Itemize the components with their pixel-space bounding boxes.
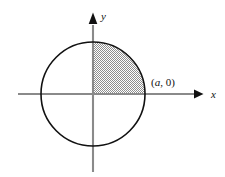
point-a-label: (a, 0) [151,76,175,89]
x-axis-label: x [210,88,216,100]
circle-quadrant-diagram: y x (a, 0) [0,0,225,177]
figure-container: y x (a, 0) [0,0,225,177]
y-axis-arrowhead-icon [89,13,98,25]
x-axis-arrowhead-icon [194,90,204,99]
y-axis-label: y [100,10,106,22]
point-a-close-paren: ) [171,76,175,89]
